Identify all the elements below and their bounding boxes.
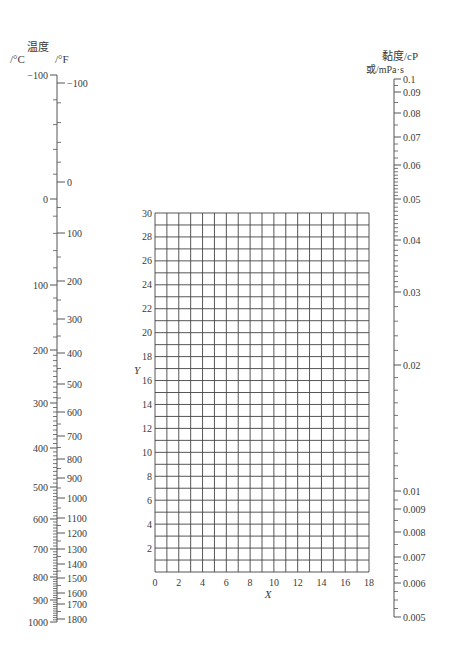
fahrenheit-tick-label: −100 — [67, 78, 88, 89]
x-tick-label: 2 — [176, 577, 181, 588]
viscosity-tick-label: 0.005 — [403, 612, 426, 623]
x-tick-label: 4 — [200, 577, 205, 588]
x-tick-label: 6 — [224, 577, 229, 588]
y-tick-label: 10 — [142, 447, 152, 458]
xy-coordinate-grid: 0246810121416182468101214161820222426283… — [134, 208, 374, 601]
viscosity-tick-label: 0.08 — [403, 108, 421, 119]
fahrenheit-tick-label: 1400 — [67, 559, 87, 570]
x-axis-label: X — [264, 588, 273, 600]
x-tick-label: 18 — [364, 577, 374, 588]
celsius-tick-label: 700 — [33, 544, 48, 555]
fahrenheit-tick-label: 1000 — [67, 493, 87, 504]
y-tick-label: 22 — [142, 303, 152, 314]
viscosity-tick-label: 0.05 — [403, 194, 421, 205]
fahrenheit-tick-label: 1500 — [67, 573, 87, 584]
x-tick-label: 0 — [153, 577, 158, 588]
viscosity-tick-label: 0.01 — [403, 486, 421, 497]
viscosity-tick-label: 0.009 — [403, 504, 426, 515]
y-tick-label: 4 — [147, 519, 152, 530]
viscosity-tick-label: 0.008 — [403, 527, 426, 538]
fahrenheit-tick-label: 600 — [67, 407, 82, 418]
fahrenheit-tick-label: 800 — [67, 454, 82, 465]
celsius-tick-label: 400 — [33, 443, 48, 454]
x-tick-label: 16 — [340, 577, 350, 588]
y-tick-label: 30 — [142, 208, 152, 219]
fahrenheit-tick-label: 1300 — [67, 544, 87, 555]
temperature-scale: −10001002003004005006007008009001000−100… — [27, 70, 87, 628]
fahrenheit-tick-label: 400 — [67, 348, 82, 359]
x-tick-label: 10 — [269, 577, 279, 588]
viscosity-tick-label: 0.09 — [403, 87, 421, 98]
y-tick-label: 28 — [142, 231, 152, 242]
y-tick-label: 6 — [147, 495, 152, 506]
viscosity-tick-label: 0.1 — [403, 74, 416, 85]
x-tick-label: 12 — [293, 577, 303, 588]
celsius-tick-label: 900 — [33, 595, 48, 606]
fahrenheit-tick-label: 300 — [67, 314, 82, 325]
y-tick-label: 16 — [142, 375, 152, 386]
y-tick-label: 20 — [142, 327, 152, 338]
viscosity-nomograph: −10001002003004005006007008009001000−100… — [0, 0, 449, 661]
y-tick-label: 18 — [142, 351, 152, 362]
celsius-tick-label: 1000 — [28, 617, 48, 628]
viscosity-tick-label: 0.006 — [403, 578, 426, 589]
y-tick-label: 12 — [142, 423, 152, 434]
viscosity-tick-label: 0.007 — [403, 552, 426, 563]
fahrenheit-tick-label: 700 — [67, 431, 82, 442]
y-tick-label: 14 — [142, 399, 152, 410]
y-tick-label: 8 — [147, 471, 152, 482]
celsius-tick-label: 500 — [33, 482, 48, 493]
celsius-tick-label: 600 — [33, 514, 48, 525]
celsius-tick-label: 0 — [43, 194, 48, 205]
fahrenheit-tick-label: 1600 — [67, 588, 87, 599]
fahrenheit-tick-label: 900 — [67, 473, 82, 484]
celsius-tick-label: 100 — [33, 280, 48, 291]
fahrenheit-tick-label: 100 — [67, 228, 82, 239]
fahrenheit-tick-label: 1700 — [67, 599, 87, 610]
y-axis-label: Y — [134, 364, 142, 376]
fahrenheit-tick-label: 1800 — [67, 614, 87, 625]
fahrenheit-tick-label: 1100 — [67, 513, 87, 524]
viscosity-tick-label: 0.03 — [403, 287, 421, 298]
celsius-tick-label: 300 — [33, 398, 48, 409]
x-tick-label: 8 — [248, 577, 253, 588]
viscosity-tick-label: 0.06 — [403, 160, 421, 171]
celsius-tick-label: 200 — [33, 345, 48, 356]
viscosity-tick-label: 0.04 — [403, 235, 421, 246]
viscosity-tick-label: 0.07 — [403, 132, 421, 143]
celsius-tick-label: 800 — [33, 572, 48, 583]
fahrenheit-tick-label: 500 — [67, 379, 82, 390]
x-tick-label: 14 — [316, 577, 326, 588]
y-tick-label: 2 — [147, 543, 152, 554]
y-tick-label: 26 — [142, 255, 152, 266]
fahrenheit-tick-label: 200 — [67, 276, 82, 287]
y-tick-label: 24 — [142, 279, 152, 290]
viscosity-scale: 0.10.090.080.070.060.050.040.030.020.010… — [394, 74, 426, 623]
fahrenheit-tick-label: 1200 — [67, 528, 87, 539]
fahrenheit-tick-label: 0 — [67, 177, 72, 188]
viscosity-tick-label: 0.02 — [403, 360, 421, 371]
celsius-tick-label: −100 — [27, 70, 48, 81]
